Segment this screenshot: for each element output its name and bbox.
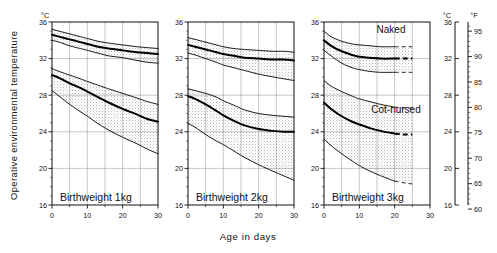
right-fahrenheit-tick-label: 90 bbox=[474, 52, 482, 61]
right-celsius-tick-label: 32 bbox=[444, 54, 452, 63]
y-axis-title-text: Operative environmental temperature bbox=[8, 31, 19, 200]
x-tick-label: 30 bbox=[154, 211, 162, 220]
x-tick-label: 0 bbox=[186, 211, 190, 220]
right-celsius-tick-label: 16 bbox=[444, 201, 452, 210]
y-tick-label: 24 bbox=[175, 127, 183, 136]
plot-layer: 0102030162024283236010203016202428323601… bbox=[39, 18, 482, 220]
y-tick-label: 20 bbox=[311, 164, 319, 173]
y-tick-label: 16 bbox=[175, 201, 183, 210]
y-tick-label: 16 bbox=[311, 201, 319, 210]
panel-3: 0102030162024283236 bbox=[311, 18, 434, 220]
right-fahrenheit-tick-label: 75 bbox=[474, 128, 482, 137]
right-fahrenheit-tick-label: 60 bbox=[474, 205, 482, 214]
panel-3-title: Birthweight 3kg bbox=[332, 191, 404, 203]
right-fahrenheit-tick-label: 70 bbox=[474, 154, 482, 163]
x-tick-label: 0 bbox=[50, 211, 54, 220]
band-naked bbox=[324, 31, 412, 72]
x-tick-label: 10 bbox=[83, 211, 91, 220]
y-tick-label: 32 bbox=[175, 54, 183, 63]
figure-container: Operative environmental temperature Age … bbox=[0, 0, 497, 253]
y-tick-label: 24 bbox=[39, 127, 47, 136]
x-tick-label: 10 bbox=[219, 211, 227, 220]
right-dual-axis: 1620242832366065707580859095 bbox=[444, 18, 482, 214]
right-celsius-tick-label: 36 bbox=[444, 18, 452, 27]
y-tick-label: 28 bbox=[39, 91, 47, 100]
right-fahrenheit-tick-label: 80 bbox=[474, 103, 482, 112]
y-tick-label: 36 bbox=[175, 18, 183, 27]
x-tick-label: 0 bbox=[322, 211, 326, 220]
y-axis-title: Operative environmental temperature bbox=[8, 31, 19, 200]
right-celsius-tick-label: 28 bbox=[444, 91, 452, 100]
y-tick-label: 28 bbox=[311, 91, 319, 100]
y-tick-label: 24 bbox=[311, 127, 319, 136]
panel-2-title: Birthweight 2kg bbox=[196, 191, 268, 203]
x-tick-label: 30 bbox=[426, 211, 434, 220]
y-tick-label: 36 bbox=[39, 18, 47, 27]
x-tick-label: 20 bbox=[391, 211, 399, 220]
panel-1-title: Birthweight 1kg bbox=[60, 191, 132, 203]
x-tick-label: 10 bbox=[355, 211, 363, 220]
x-tick-label: 20 bbox=[255, 211, 263, 220]
right-fahrenheit-tick-label: 95 bbox=[474, 27, 482, 36]
right-fahrenheit-tick-label: 65 bbox=[474, 179, 482, 188]
right-fahrenheit-unit-label: °F bbox=[470, 11, 478, 20]
x-tick-label: 30 bbox=[290, 211, 298, 220]
right-celsius-tick-label: 20 bbox=[444, 164, 452, 173]
chart-svg: Operative environmental temperature Age … bbox=[0, 0, 497, 253]
y-tick-label: 16 bbox=[39, 201, 47, 210]
y-tick-label: 32 bbox=[39, 54, 47, 63]
panel-1: 0102030162024283236 bbox=[39, 18, 162, 220]
y-tick-label: 20 bbox=[175, 164, 183, 173]
right-celsius-tick-label: 24 bbox=[444, 127, 452, 136]
y-tick-label: 28 bbox=[175, 91, 183, 100]
x-axis-title-text: Age in days bbox=[220, 231, 277, 242]
right-fahrenheit-tick-label: 85 bbox=[474, 78, 482, 87]
panel-2: 0102030162024283236 bbox=[175, 18, 298, 220]
naked-series-label: Naked bbox=[377, 24, 406, 35]
y-tick-label: 32 bbox=[311, 54, 319, 63]
x-tick-label: 20 bbox=[119, 211, 127, 220]
cot-nursed-series-label: Cot-nursed bbox=[371, 104, 420, 115]
y-tick-label: 36 bbox=[311, 18, 319, 27]
y-tick-label: 20 bbox=[39, 164, 47, 173]
